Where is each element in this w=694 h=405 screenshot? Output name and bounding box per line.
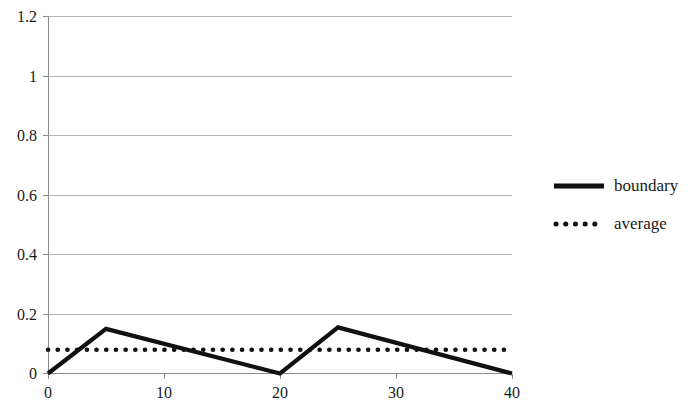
y-axis-tick-labels: 1.2 1 0.8 0.6 0.4 0.2 0 [17,8,37,382]
plot-series [48,327,512,373]
gridlines [48,17,512,315]
x-tick-label-0: 0 [44,384,52,401]
line-chart: 1.2 1 0.8 0.6 0.4 0.2 0 0 10 20 30 40 bo… [0,0,694,405]
y-tick-label-0: 0 [29,365,37,382]
x-tick-label-10: 10 [156,384,172,401]
x-tick-label-40: 40 [504,384,520,401]
x-tick-label-20: 20 [272,384,288,401]
y-axis-tick-marks [43,17,48,374]
legend-label-boundary: boundary [614,176,679,195]
x-axis-tick-labels: 0 10 20 30 40 [44,384,520,401]
y-tick-label-0.4: 0.4 [17,246,37,263]
y-tick-label-1: 1 [29,68,37,85]
chart-legend: boundary average [554,176,679,233]
y-tick-label-0.6: 0.6 [17,187,37,204]
chart-container: 1.2 1 0.8 0.6 0.4 0.2 0 0 10 20 30 40 bo… [0,0,694,405]
y-tick-label-1.2: 1.2 [17,8,37,25]
y-tick-label-0.8: 0.8 [17,127,37,144]
legend-label-average: average [614,214,667,233]
x-tick-label-30: 30 [388,384,404,401]
y-tick-label-0.2: 0.2 [17,306,37,323]
